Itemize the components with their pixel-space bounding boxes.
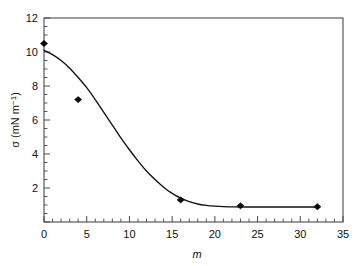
x-tick-label: 10 (123, 228, 135, 240)
y-tick-label: 4 (32, 148, 38, 160)
y-tick-label: 8 (32, 80, 38, 92)
x-tick-label: 35 (337, 228, 349, 240)
x-axis-title: m (192, 248, 201, 260)
chart-canvas: 05101520253035 24681012 m σ (mN m−1) (0, 0, 361, 266)
x-tick-label: 15 (166, 228, 178, 240)
x-tick-label: 30 (294, 228, 306, 240)
x-tick-label: 25 (251, 228, 263, 240)
chart-background (0, 0, 361, 266)
y-tick-label: 6 (32, 114, 38, 126)
x-tick-label: 0 (41, 228, 47, 240)
x-tick-label: 5 (84, 228, 90, 240)
y-tick-label: 2 (32, 182, 38, 194)
x-tick-label: 20 (209, 228, 221, 240)
y-tick-label: 10 (26, 46, 38, 58)
figure-container: 05101520253035 24681012 m σ (mN m−1) (0, 0, 361, 266)
y-tick-label: 12 (26, 12, 38, 24)
